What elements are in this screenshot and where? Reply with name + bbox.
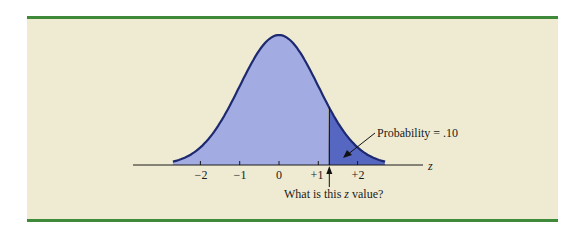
- zvalue-arrowhead-icon: [326, 166, 332, 174]
- tick-label-plus2: +2: [352, 169, 365, 181]
- tick-label-plus1: +1: [311, 169, 324, 181]
- question-suffix: value?: [349, 187, 383, 201]
- question-prefix: What is this: [284, 187, 344, 201]
- question-annotation: What is this z value?: [284, 188, 383, 200]
- tick-label-minus1: −1: [234, 169, 247, 181]
- probability-annotation: Probability = .10: [377, 127, 458, 139]
- tick-label-0: 0: [276, 169, 282, 181]
- curve-body-fill: [173, 35, 329, 165]
- axis-label-z: z: [428, 160, 433, 172]
- tick-label-minus2: −2: [195, 169, 208, 181]
- normal-curve-chart: [0, 0, 585, 237]
